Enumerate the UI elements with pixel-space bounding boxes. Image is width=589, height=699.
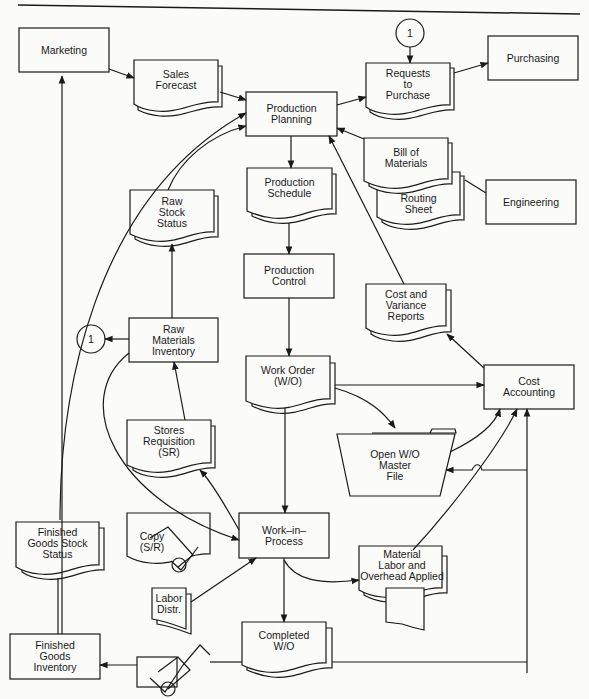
- stores-requisition-label: Stores Requisition (SR): [127, 420, 211, 462]
- raw-stock-status-label: Raw Stock Status: [130, 190, 214, 234]
- purchasing-label: Purchasing: [488, 36, 578, 80]
- work-order-label: Work Order (W/O): [246, 356, 330, 396]
- labor-distr-label: Labor Distr.: [152, 590, 186, 618]
- connector-top-label: 1: [396, 26, 424, 40]
- work-in-process-label: Work–in– Process: [239, 513, 329, 558]
- top-rule: [18, 5, 580, 14]
- engineering-label: Engineering: [486, 180, 576, 224]
- material-labor-overhead-label: Material Labor and Overhead Applied: [359, 546, 445, 584]
- requests-to-purchase-label: Requests to Purchase: [366, 63, 450, 105]
- production-control-label: Production Control: [244, 254, 334, 298]
- finished-goods-stock-status-label: Finished Goods Stock Status: [16, 522, 99, 564]
- routing-sheet-label: Routing Sheet: [377, 190, 460, 218]
- production-schedule-label: Production Schedule: [247, 168, 332, 208]
- raw-materials-inventory-label: Raw Materials Inventory: [129, 318, 218, 362]
- completed-wo-label: Completed W/O: [242, 622, 326, 660]
- connector-left-label: 1: [77, 332, 105, 346]
- cost-variance-reports-label: Cost and Variance Reports: [366, 284, 446, 326]
- production-planning-label: Production Planning: [246, 92, 337, 136]
- open-wo-master-file-label: Open W/O Master File: [345, 440, 445, 490]
- marketing-label: Marketing: [19, 28, 109, 72]
- finished-goods-inventory-label: Finished Goods Inventory: [10, 634, 100, 679]
- bill-of-materials-label: Bill of Materials: [364, 138, 448, 178]
- cost-accounting-label: Cost Accounting: [484, 365, 574, 409]
- sales-forecast-label: Sales Forecast: [134, 60, 218, 100]
- copy-sr-label: Copy (S/R): [127, 527, 177, 557]
